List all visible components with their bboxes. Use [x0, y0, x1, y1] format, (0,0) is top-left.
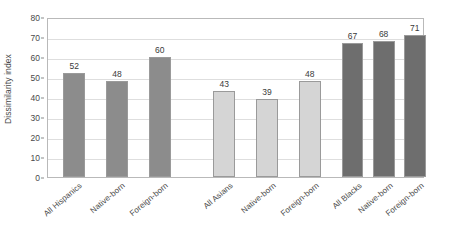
y-axis-tick-60: 60 [31, 53, 40, 63]
gridline-70 [48, 39, 423, 40]
x-axis-category-labels: All HispanicsNative-bornForeign-bornAll … [47, 179, 424, 233]
gridline-40 [48, 99, 423, 100]
x-axis-label-2: Foreign-born [128, 181, 170, 218]
bar-8 [404, 35, 426, 177]
bar-value-label-6: 67 [348, 31, 357, 41]
bar-5 [299, 81, 321, 177]
bar-4 [256, 99, 278, 177]
bar-1 [106, 81, 128, 177]
y-axis-tick-10: 10 [31, 153, 40, 163]
bar-value-label-5: 48 [305, 69, 314, 79]
y-axis-tick-mark-70 [41, 38, 44, 39]
y-axis-tick-mark-40 [41, 98, 44, 99]
gridline-10 [48, 159, 423, 160]
y-axis-tick-mark-60 [41, 58, 44, 59]
x-axis-label-0: All Hispanics [42, 181, 84, 218]
bar-6 [342, 43, 364, 177]
y-axis-tick-0: 0 [35, 173, 40, 183]
bar-3 [213, 91, 235, 177]
bar-value-label-8: 71 [410, 23, 419, 33]
y-axis-tick-labels: 01020304050607080 [16, 18, 44, 178]
bar-value-label-1: 48 [112, 69, 121, 79]
bar-0 [63, 73, 85, 177]
bar-2 [149, 57, 171, 177]
y-axis-tick-mark-80 [41, 18, 44, 19]
y-axis-tick-mark-30 [41, 118, 44, 119]
y-axis-tick-50: 50 [31, 73, 40, 83]
y-axis-title-text: Dissimilarity index [3, 54, 13, 124]
y-axis-tick-mark-20 [41, 138, 44, 139]
bar-value-label-7: 68 [379, 29, 388, 39]
bar-value-label-3: 43 [220, 79, 229, 89]
y-axis-tick-mark-0 [41, 178, 44, 179]
plot-area: 524860433948676871 [47, 18, 424, 178]
gridline-20 [48, 139, 423, 140]
gridline-60 [48, 59, 423, 60]
dissimilarity-index-bar-chart: Dissimilarity index 01020304050607080 52… [0, 0, 449, 233]
bar-value-label-4: 39 [262, 87, 271, 97]
y-axis-title: Dissimilarity index [0, 0, 16, 178]
bar-7 [373, 41, 395, 177]
gridline-50 [48, 79, 423, 80]
y-axis-tick-70: 70 [31, 33, 40, 43]
y-axis-tick-20: 20 [31, 133, 40, 143]
y-axis-tick-mark-50 [41, 78, 44, 79]
x-axis-label-1: Native-born [88, 181, 126, 215]
bar-value-label-2: 60 [155, 45, 164, 55]
y-axis-tick-mark-10 [41, 158, 44, 159]
x-axis-label-3: All Asians [201, 181, 234, 211]
y-axis-tick-40: 40 [31, 93, 40, 103]
x-axis-label-4: Native-born [239, 181, 277, 215]
y-axis-tick-30: 30 [31, 113, 40, 123]
x-axis-label-5: Foreign-born [279, 181, 321, 218]
bar-value-label-0: 52 [70, 61, 79, 71]
gridline-30 [48, 119, 423, 120]
y-axis-tick-80: 80 [31, 13, 40, 23]
